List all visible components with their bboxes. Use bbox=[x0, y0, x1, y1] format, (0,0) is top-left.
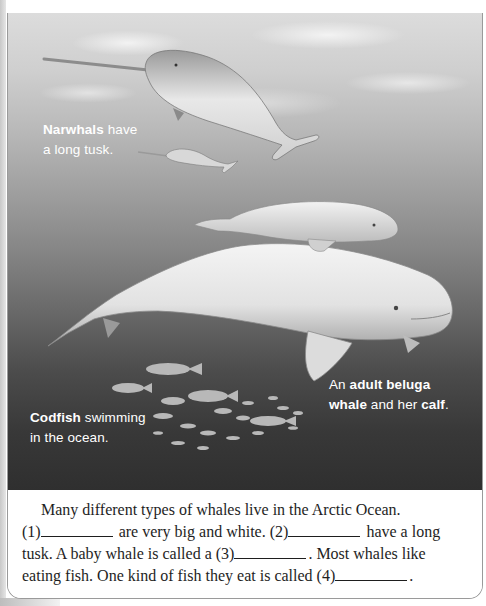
exercise-seg-4: . Most whales like bbox=[308, 545, 425, 562]
beluga-caption-bold3: calf bbox=[421, 397, 445, 412]
narwhal-caption-bold: Narwhals bbox=[43, 122, 104, 137]
narwhal-caption-line1: have bbox=[104, 122, 138, 137]
narwhal-caption: Narwhals have a long tusk. bbox=[43, 120, 137, 160]
arctic-whales-illustration: Narwhals have a long tusk. An adult belu… bbox=[8, 13, 482, 490]
exercise-line-3: tusk. A baby whale is called a (3). Most… bbox=[22, 543, 472, 565]
beluga-caption-bold2: whale bbox=[329, 397, 367, 412]
blank-1[interactable] bbox=[41, 523, 113, 537]
exercise-seg-5: eating fish. One kind of fish they eat i… bbox=[22, 567, 317, 584]
exercise-line-2: (1) are very big and white. (2) have a l… bbox=[22, 521, 472, 543]
exercise-paragraph: Many different types of whales live in t… bbox=[22, 499, 472, 587]
blank-4[interactable] bbox=[335, 567, 407, 581]
blank-4-label: (4) bbox=[317, 567, 336, 584]
worksheet-card: Narwhals have a long tusk. An adult belu… bbox=[7, 13, 483, 599]
exercise-line-1: Many different types of whales live in t… bbox=[22, 499, 472, 521]
beluga-caption-bold1: adult beluga bbox=[350, 377, 431, 392]
exercise-seg-1: are very big and white. bbox=[115, 523, 270, 540]
beluga-adult-icon bbox=[48, 244, 452, 381]
blank-3-label: (3) bbox=[216, 545, 235, 562]
blank-2-label: (2) bbox=[270, 523, 289, 540]
beluga-caption-mid: and her bbox=[367, 397, 421, 412]
blank-1-label: (1) bbox=[22, 523, 41, 540]
codfish-caption-bold: Codfish bbox=[30, 410, 81, 425]
blank-2[interactable] bbox=[288, 523, 360, 537]
beluga-caption: An adult beluga whale and her calf. bbox=[329, 375, 449, 415]
codfish-caption: Codfish swimming in the ocean. bbox=[30, 408, 146, 448]
fill-in-the-blank-exercise: Many different types of whales live in t… bbox=[8, 490, 482, 598]
narwhal-calf-icon bbox=[138, 149, 238, 173]
beluga-caption-post: . bbox=[445, 397, 449, 412]
page-bottom-shadow bbox=[0, 598, 60, 606]
exercise-line-4: eating fish. One kind of fish they eat i… bbox=[22, 565, 472, 587]
exercise-seg-2: have a long bbox=[362, 523, 440, 540]
narwhal-caption-line2: a long tusk. bbox=[43, 142, 113, 157]
page-edge-shadow bbox=[0, 0, 6, 606]
blank-3[interactable] bbox=[234, 545, 306, 559]
exercise-seg-3: tusk. A baby whale is called a bbox=[22, 545, 216, 562]
codfish-caption-line2: in the ocean. bbox=[30, 430, 109, 445]
beluga-caption-pre: An bbox=[329, 377, 350, 392]
codfish-caption-line1: swimming bbox=[81, 410, 146, 425]
exercise-seg-6: . bbox=[409, 567, 413, 584]
